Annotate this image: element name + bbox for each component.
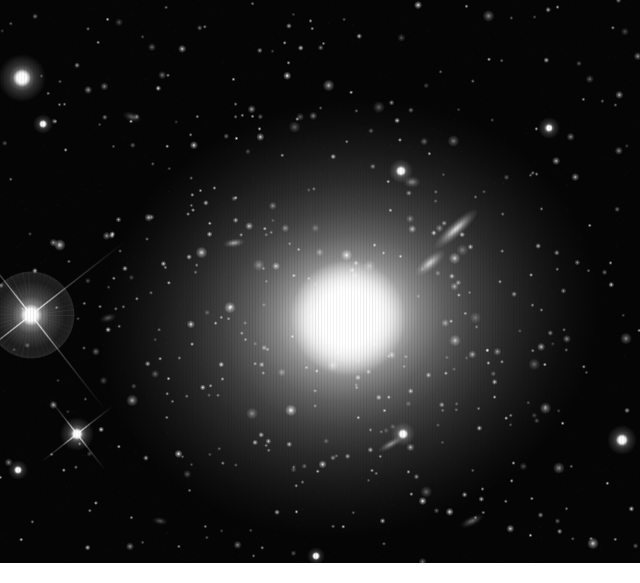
image-bottom-margin	[0, 563, 640, 583]
astronomical-image-frame	[0, 0, 640, 563]
deep-sky-image	[0, 0, 640, 563]
screenshot-root	[0, 0, 640, 583]
